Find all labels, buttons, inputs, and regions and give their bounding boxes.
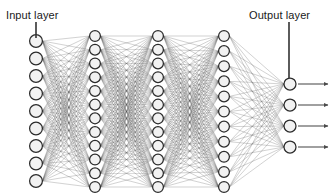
neuron-node-hidden-3: [153, 58, 164, 69]
neuron-node-hidden-8: [90, 127, 101, 138]
connection-edge: [229, 147, 284, 187]
neuron-node-hidden-11: [90, 168, 101, 179]
neuron-node-hidden-4: [219, 76, 230, 87]
network-canvas: [0, 0, 334, 196]
connection-edge: [42, 59, 89, 91]
connection-edge: [42, 36, 89, 41]
neuron-node-output-4: [284, 141, 296, 153]
connection-edge: [163, 91, 218, 157]
neuron-node-hidden-11: [219, 182, 230, 193]
neuron-node-hidden-9: [90, 140, 101, 151]
neuron-node-hidden-7: [90, 113, 101, 124]
neuron-node-hidden-3: [219, 61, 230, 72]
neuron-node-hidden-6: [219, 106, 230, 117]
neuron-node-output-3: [284, 120, 296, 132]
neuron-node-hidden-6: [90, 99, 101, 110]
connection-edge: [229, 81, 284, 105]
neuron-node-hidden-10: [219, 167, 230, 178]
neuron-node-input-4: [30, 87, 43, 100]
output-arrows: [298, 84, 328, 147]
neuron-node-hidden-6: [153, 99, 164, 110]
neuron-node-input-5: [30, 105, 43, 118]
neuron-node-hidden-2: [153, 44, 164, 55]
connection-edge: [229, 81, 284, 84]
connection-edge: [229, 147, 284, 157]
connection-edge: [229, 147, 284, 172]
neuron-node-hidden-1: [153, 31, 164, 42]
neuron-node-input-8: [30, 157, 43, 170]
connection-edge: [229, 127, 284, 147]
neuron-node-hidden-5: [153, 86, 164, 97]
neuron-node-hidden-12: [153, 182, 164, 193]
neuron-node-input-6: [30, 122, 43, 135]
neuron-node-hidden-3: [90, 58, 101, 69]
neuron-nodes: [30, 31, 296, 193]
neuron-node-input-7: [30, 140, 43, 153]
neuron-node-hidden-10: [153, 154, 164, 165]
connection-edge: [229, 36, 284, 147]
connection-edge: [229, 51, 284, 84]
neuron-node-hidden-2: [219, 46, 230, 57]
neuron-node-input-9: [30, 175, 43, 188]
neuron-node-output-1: [284, 78, 296, 90]
connection-edges: [42, 36, 284, 187]
neuron-node-hidden-10: [90, 154, 101, 165]
connection-edge: [163, 66, 218, 132]
neuron-node-hidden-12: [90, 182, 101, 193]
neuron-node-hidden-7: [219, 121, 230, 132]
neuron-node-hidden-5: [90, 86, 101, 97]
input-layer-label: Input layer: [6, 9, 58, 22]
neural-network-diagram: Input layer Output layer: [0, 0, 334, 196]
output-layer-label: Output layer: [249, 9, 310, 22]
connection-edge: [229, 84, 284, 172]
neuron-node-hidden-1: [219, 31, 230, 42]
connection-edge: [42, 36, 89, 181]
connection-edge: [229, 105, 284, 172]
neuron-node-input-2: [30, 52, 43, 65]
connection-edge: [229, 126, 284, 127]
neuron-node-hidden-9: [153, 140, 164, 151]
neuron-node-hidden-2: [90, 44, 101, 55]
neuron-node-hidden-4: [153, 72, 164, 83]
neuron-node-output-2: [284, 99, 296, 111]
neuron-node-hidden-7: [153, 113, 164, 124]
connection-edge: [229, 36, 284, 84]
neuron-node-hidden-1: [90, 31, 101, 42]
neuron-node-hidden-8: [153, 127, 164, 138]
connection-edge: [42, 181, 89, 187]
connection-edge: [229, 112, 284, 127]
connection-edge: [42, 173, 89, 181]
neuron-node-hidden-4: [90, 72, 101, 83]
neuron-node-hidden-11: [153, 168, 164, 179]
neuron-node-input-3: [30, 70, 43, 83]
neuron-node-hidden-5: [219, 91, 230, 102]
neuron-node-hidden-8: [219, 136, 230, 147]
neuron-node-hidden-9: [219, 151, 230, 162]
